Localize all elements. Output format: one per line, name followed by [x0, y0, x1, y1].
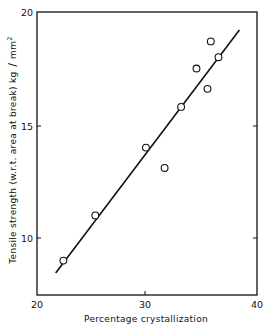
x-tick-40: 40	[251, 299, 263, 310]
y-axis-ticks	[37, 126, 257, 238]
data-point	[193, 65, 200, 72]
y-tick-20: 20	[21, 7, 33, 18]
data-point	[60, 257, 67, 264]
y-axis-title-sup: 2	[6, 36, 14, 40]
data-point	[92, 212, 99, 219]
data-point	[204, 85, 211, 92]
data-point	[207, 38, 214, 45]
y-axis-title: Tensile strength (w.r.t. area at break) …	[6, 36, 19, 264]
svg-text:Tensile strength (w.r.t. area: Tensile strength (w.r.t. area at break) …	[6, 36, 19, 264]
data-point	[215, 54, 222, 61]
fit-line	[56, 30, 240, 273]
data-point	[178, 104, 185, 111]
x-tick-20: 20	[31, 299, 43, 310]
data-points	[60, 38, 222, 264]
y-tick-15: 15	[21, 121, 33, 132]
x-tick-30: 30	[139, 299, 151, 310]
data-point	[161, 165, 168, 172]
scatter-chart: 20 15 10 20 30 40 Percentage crystalliza…	[0, 0, 267, 327]
y-axis-title-unit: mm	[8, 41, 18, 59]
y-axis-title-main: Tensile strength (w.r.t. area at break) …	[8, 72, 18, 265]
data-point	[143, 144, 150, 151]
x-axis-title: Percentage crystallization	[84, 314, 208, 324]
y-tick-10: 10	[21, 233, 33, 244]
regression-line	[56, 30, 240, 273]
